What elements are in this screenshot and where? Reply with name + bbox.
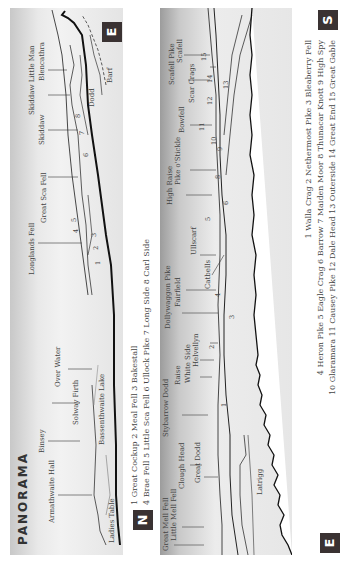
- label-skiddaw-little-man: Skiddaw Little Man: [28, 45, 36, 115]
- label-great-sca-fell: Great Sca Fell: [40, 172, 48, 223]
- label-white-side: White Side: [184, 344, 192, 383]
- number-10: 10: [210, 137, 218, 145]
- label-high-raise: High Raise: [166, 166, 174, 205]
- top-panorama-panel: PANORAMA: [10, 8, 123, 555]
- label-dollywaggon-pike: Dollywaggon Pike: [164, 265, 172, 329]
- top-caption-line-1: 1 Great Cockup 2 Meal Fell 3 Bakestall: [130, 346, 140, 505]
- label-solway-firth: Solway Firth: [72, 380, 80, 425]
- label-barf: Barf: [106, 68, 114, 83]
- bottom-caption-line-3: 10 Glaramara 11 Causey Pike 12 Dale Head…: [328, 40, 338, 395]
- label-blencathra: Blencathra: [38, 42, 46, 81]
- label-raise: Raise: [174, 365, 182, 385]
- label-great-mell-fell: Great Mell Fell: [162, 498, 170, 551]
- number-5: 5: [204, 217, 212, 221]
- label-scafell: Scafell: [176, 39, 184, 63]
- label-clough-head: Clough Head: [178, 443, 186, 489]
- number-2: 2: [208, 345, 216, 349]
- east-badge-top: E: [102, 22, 122, 42]
- label-armathwaite-hall: Armathwaite Hall: [48, 460, 56, 523]
- label-catbells: Catbells: [204, 260, 212, 289]
- label-scar-crags: Scar Crags: [188, 64, 196, 103]
- label-fairfield: Fairfield: [174, 277, 182, 307]
- number-6: 6: [222, 201, 230, 205]
- number-12: 12: [206, 97, 214, 105]
- number-4: 4: [214, 293, 222, 297]
- label-skiddaw: Skiddaw: [38, 115, 46, 145]
- number-7: 7: [78, 131, 86, 135]
- label-over-water: Over Water: [54, 347, 62, 387]
- number-13: 13: [222, 81, 230, 89]
- number-11: 11: [198, 123, 206, 131]
- label-stybarrow-dodd: Stybarrow Dodd: [162, 379, 170, 437]
- number-14: 14: [206, 75, 214, 83]
- label-ladies-table: Ladies Table: [108, 498, 116, 543]
- number-15: 15: [200, 53, 208, 61]
- north-badge: N: [133, 510, 153, 530]
- label-bowfell: Bowfell: [178, 106, 186, 133]
- label-scafell-pike: Scafell Pike: [168, 43, 176, 85]
- number-1: 1: [94, 261, 102, 265]
- number-8: 8: [74, 114, 82, 118]
- top-ridge-lines: [10, 8, 123, 555]
- label-little-mell-fell: Little Mell Fell: [170, 489, 178, 541]
- number-3: 3: [228, 315, 236, 319]
- number-2: 2: [92, 246, 100, 250]
- label-latrigg: Latrigg: [256, 469, 264, 495]
- label-longlands-fell: Longlands Fell: [28, 223, 36, 275]
- label-ullscarf: Ullscarf: [190, 227, 198, 255]
- south-badge: S: [318, 10, 338, 30]
- number-8: 8: [214, 175, 222, 179]
- label-dodd: Dodd: [88, 88, 96, 107]
- bottom-caption-line-2: 4 Heron Pike 5 Eagle Crag 6 Barrow 7 Mai…: [316, 40, 326, 375]
- label-bassenthwaite-lake: Bassenthwaite Lake: [98, 374, 106, 445]
- number-1: 1: [220, 403, 228, 407]
- label-great-dodd: Great Dodd: [194, 442, 202, 483]
- label-pike-o-stickle: Pike o'Stickle: [174, 137, 182, 185]
- bottom-panorama-panel: Great Mell Fell Little Mell Fell Clough …: [160, 8, 298, 555]
- number-6: 6: [82, 153, 90, 157]
- label-binsey: Binsey: [38, 429, 46, 453]
- east-badge-bottom: E: [320, 533, 340, 553]
- number-5: 5: [70, 218, 78, 222]
- panorama-diagram: PANORAMA: [0, 0, 349, 563]
- label-helvellyn: Helvellyn: [192, 333, 200, 367]
- number-9: 9: [216, 147, 224, 151]
- number-3: 3: [90, 233, 98, 237]
- top-caption-line-2: 4 Brae Fell 5 Little Sca Fell 6 Ullock P…: [142, 239, 152, 505]
- number-4: 4: [72, 229, 80, 233]
- bottom-caption-line-1: 1 Walla Crag 2 Nethermost Pike 3 Bleaber…: [304, 40, 314, 238]
